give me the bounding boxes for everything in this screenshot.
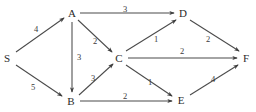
- edge-d-to-f: [190, 20, 239, 51]
- edge-weight-c-e: 1: [148, 78, 152, 87]
- edge-weight-b-c: 3: [91, 74, 95, 83]
- node-c: C: [115, 53, 122, 64]
- edge-layer: [16, 13, 239, 101]
- graph-canvas: [0, 0, 256, 112]
- node-a: A: [68, 8, 76, 19]
- node-d: D: [179, 8, 187, 19]
- edge-s-to-b: [16, 65, 62, 96]
- graph-figure: SABCDEF 453233212124: [0, 0, 256, 112]
- node-f: F: [243, 53, 249, 64]
- edge-weight-d-f: 2: [206, 35, 210, 44]
- edge-weight-e-f: 4: [211, 75, 215, 84]
- edge-weight-a-d: 3: [123, 5, 127, 14]
- edge-weight-s-b: 5: [31, 83, 35, 92]
- edge-weight-s-a: 4: [34, 25, 38, 34]
- edge-c-to-d: [126, 20, 176, 51]
- node-b: B: [67, 96, 74, 107]
- edge-b-to-c: [79, 64, 113, 95]
- edge-weight-a-b: 3: [77, 53, 81, 62]
- edge-weight-a-c: 2: [93, 37, 97, 46]
- node-e: E: [178, 95, 185, 106]
- node-s: S: [4, 53, 10, 64]
- edge-weight-c-f: 2: [180, 47, 184, 56]
- edge-s-to-a: [16, 18, 64, 52]
- edge-weight-c-d: 1: [154, 35, 158, 44]
- edge-weight-b-e: 2: [123, 92, 127, 101]
